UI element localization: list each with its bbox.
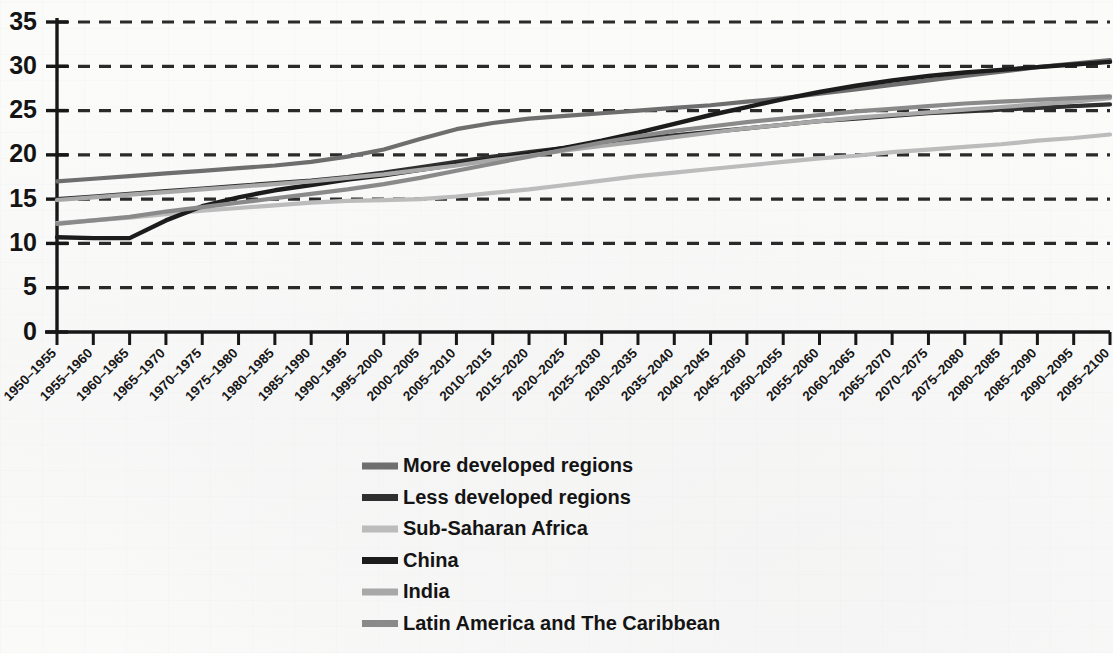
series-line-more-developed-regions <box>57 60 1110 181</box>
y-tick-label: 30 <box>9 51 37 79</box>
y-tick-label: 25 <box>9 95 37 123</box>
legend-label: Sub-Saharan Africa <box>403 517 589 539</box>
y-tick-label: 0 <box>23 317 37 345</box>
legend-label: China <box>403 549 459 571</box>
legend-label: Less developed regions <box>403 486 631 508</box>
x-axis-tick-labels: 1950–19551955–19601960–19651965–19701970… <box>1 345 1112 404</box>
grid-lines <box>46 22 1110 332</box>
y-tick-label: 5 <box>23 272 37 300</box>
chart-legend: More developed regionsLess developed reg… <box>362 454 720 634</box>
y-tick-label: 35 <box>9 7 37 35</box>
chart-canvas: 05101520253035 1950–19551955–19601960–19… <box>0 0 1113 653</box>
y-tick-label: 10 <box>9 228 37 256</box>
y-tick-label: 15 <box>9 184 37 212</box>
data-series <box>57 60 1110 238</box>
series-line-less-developed-regions <box>57 104 1110 199</box>
y-axis-tick-labels: 05101520253035 <box>9 7 37 345</box>
legend-label: Latin America and The Caribbean <box>403 612 720 634</box>
y-tick-label: 20 <box>9 139 37 167</box>
legend-label: India <box>403 580 451 602</box>
legend-label: More developed regions <box>403 454 633 476</box>
line-chart: 05101520253035 1950–19551955–19601960–19… <box>0 0 1113 653</box>
